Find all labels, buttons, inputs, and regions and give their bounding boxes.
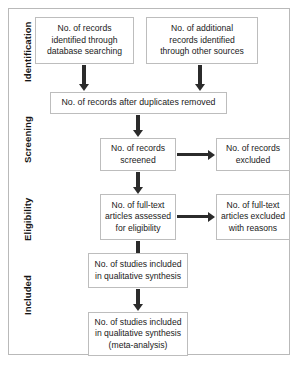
node-full-text-articles-excluded: No. of full-text articles excluded with … <box>216 194 290 240</box>
node-text: No. of additional records identified thr… <box>160 23 244 57</box>
node-text: No. of records screened <box>111 143 165 166</box>
arrow-other-sources-to-duplicates <box>192 65 208 91</box>
stage-label-identification: Identification <box>22 21 33 82</box>
node-text: No. of records identified through databa… <box>47 23 122 57</box>
node-studies-meta-analysis: No. of studies included in qualitative s… <box>88 312 188 356</box>
arrow-qualitative-to-meta-analysis <box>130 289 146 311</box>
arrow-screened-to-excluded <box>177 146 215 163</box>
node-records-identified-database: No. of records identified through databa… <box>35 17 134 64</box>
arrow-database-to-duplicates <box>76 65 92 91</box>
prisma-flow-diagram: Identification Screening Eligibility Inc… <box>0 0 302 372</box>
stage-label-eligibility: Eligibility <box>22 198 33 241</box>
node-text: No. of full-text articles assessed for e… <box>105 200 171 234</box>
node-records-screened: No. of records screened <box>100 138 176 171</box>
node-records-after-duplicates-removed: No. of records after duplicates removed <box>50 92 227 114</box>
node-text: No. of studies included in qualitative s… <box>95 317 182 351</box>
arrow-screened-to-full-text <box>130 172 146 194</box>
arrow-duplicates-to-screened <box>130 115 146 137</box>
node-text: No. of studies included in qualitative s… <box>95 259 182 282</box>
stage-label-included: Included <box>22 275 33 315</box>
node-text: No. of full-text articles excluded with … <box>221 200 285 234</box>
stage-label-screening: Screening <box>22 116 33 163</box>
node-records-excluded: No. of records excluded <box>216 138 290 171</box>
node-records-identified-other-sources: No. of additional records identified thr… <box>146 17 258 64</box>
arrow-full-text-to-excluded <box>177 208 215 225</box>
node-text: No. of records excluded <box>226 143 280 166</box>
node-studies-qualitative-synthesis: No. of studies included in qualitative s… <box>88 253 188 288</box>
node-full-text-articles-assessed: No. of full-text articles assessed for e… <box>100 194 176 240</box>
node-text: No. of records after duplicates removed <box>61 97 215 108</box>
